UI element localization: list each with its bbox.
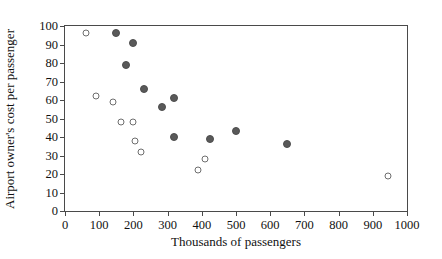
- y-axis-title-label: Airport owner's cost per passenger: [2, 29, 18, 209]
- data-point-filled: [170, 133, 178, 141]
- x-axis-tick: [304, 211, 305, 216]
- x-axis-tick: [133, 211, 134, 216]
- x-axis-tick-label: 400: [192, 219, 211, 232]
- x-axis-tick: [407, 211, 408, 216]
- scatter-plot-figure: Airport owner's cost per passenger 01020…: [0, 0, 442, 259]
- data-point-open: [117, 119, 124, 126]
- data-point-open: [385, 172, 392, 179]
- y-axis-tick: [60, 174, 65, 175]
- y-axis-tick-label: 60: [46, 94, 59, 107]
- y-axis-tick: [60, 100, 65, 101]
- y-axis-tick-label: 90: [46, 38, 59, 51]
- data-point-filled: [283, 140, 291, 148]
- x-axis-tick-label: 300: [158, 219, 177, 232]
- data-point-open: [82, 30, 89, 37]
- data-point-filled: [140, 85, 148, 93]
- y-axis-tick-label: 100: [39, 20, 58, 33]
- y-axis-tick-label: 70: [46, 75, 59, 88]
- data-point-open: [109, 98, 116, 105]
- y-axis-tick: [60, 26, 65, 27]
- x-axis-tick: [339, 211, 340, 216]
- data-point-open: [137, 148, 144, 155]
- x-axis-tick-label: 700: [295, 219, 314, 232]
- y-axis-tick: [60, 45, 65, 46]
- y-axis-tick: [60, 193, 65, 194]
- data-point-filled: [122, 61, 130, 69]
- data-point-open: [129, 119, 136, 126]
- x-axis-tick-label: 200: [124, 219, 143, 232]
- x-axis-tick-label: 100: [90, 219, 109, 232]
- y-axis-tick: [60, 137, 65, 138]
- y-axis-tick: [60, 63, 65, 64]
- y-axis-tick-label: 30: [46, 149, 59, 162]
- x-axis-tick-label: 600: [261, 219, 280, 232]
- x-axis-tick-label: 0: [62, 219, 68, 232]
- data-point-filled: [232, 127, 240, 135]
- data-point-filled: [129, 39, 137, 47]
- x-axis-tick: [65, 211, 66, 216]
- y-axis-tick-label: 20: [46, 168, 59, 181]
- data-point-open: [195, 167, 202, 174]
- data-point-open: [93, 93, 100, 100]
- x-axis-tick: [202, 211, 203, 216]
- data-point-open: [201, 156, 208, 163]
- y-axis-tick-label: 50: [46, 112, 59, 125]
- x-axis-title-label: Thousands of passengers: [171, 234, 301, 249]
- y-axis-tick: [60, 156, 65, 157]
- data-point-filled: [170, 94, 178, 102]
- y-axis-tick-label: 10: [46, 186, 59, 199]
- y-axis-tick-label: 0: [52, 205, 58, 218]
- x-axis-tick: [236, 211, 237, 216]
- y-axis-tick-label: 80: [46, 57, 59, 70]
- data-point-filled: [112, 29, 120, 37]
- x-axis-tick: [373, 211, 374, 216]
- plot-area: 0102030405060708090100010020030040050060…: [64, 25, 408, 212]
- x-axis-tick: [270, 211, 271, 216]
- y-axis-tick: [60, 119, 65, 120]
- x-axis-tick-label: 500: [227, 219, 246, 232]
- y-axis-tick: [60, 82, 65, 83]
- y-axis-title: Airport owner's cost per passenger: [0, 25, 20, 212]
- x-axis-tick: [168, 211, 169, 216]
- data-point-filled: [206, 135, 214, 143]
- y-axis-tick-label: 40: [46, 131, 59, 144]
- x-axis-tick: [99, 211, 100, 216]
- x-axis-tick-label: 800: [329, 219, 348, 232]
- x-axis-tick-label: 900: [363, 219, 382, 232]
- data-point-filled: [158, 103, 166, 111]
- x-axis-tick-label: 1000: [395, 219, 420, 232]
- data-point-open: [132, 137, 139, 144]
- x-axis-title: Thousands of passengers: [64, 234, 408, 250]
